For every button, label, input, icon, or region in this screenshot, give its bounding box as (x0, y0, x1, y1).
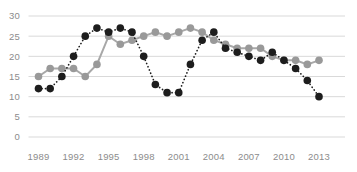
black-dotted-series-point (93, 24, 101, 32)
y-axis-tick-label: 25 (9, 31, 20, 42)
x-axis-tick-label: 2007 (238, 151, 260, 162)
x-axis-tick-label: 1992 (63, 151, 85, 162)
gray-solid-series-point (81, 73, 89, 81)
gray-solid-series-point (93, 61, 101, 69)
x-axis-tick-label: 2001 (168, 151, 190, 162)
gray-solid-series-point (46, 65, 54, 73)
gray-solid-series-point (187, 24, 195, 32)
x-axis-tick-label: 2010 (273, 151, 295, 162)
chart-canvas: 0510152025301989199219951998200120042007… (0, 0, 357, 172)
black-dotted-series-point (175, 89, 183, 97)
gray-solid-series-point (245, 44, 253, 52)
gray-solid-series-point (152, 28, 160, 36)
black-dotted-series-point (233, 49, 241, 57)
black-dotted-series-point (46, 85, 54, 93)
gray-solid-series-point (175, 28, 183, 36)
black-dotted-series-point (280, 57, 288, 65)
black-dotted-series-point (187, 61, 195, 69)
black-dotted-series-point (152, 81, 160, 89)
black-dotted-series-point (58, 73, 66, 81)
black-dotted-series-point (81, 32, 89, 40)
black-dotted-series-point (315, 93, 323, 101)
y-axis-tick-label: 20 (9, 51, 20, 62)
black-dotted-series-line (39, 28, 320, 97)
x-axis-tick-label: 1995 (98, 151, 120, 162)
gray-solid-series-point (117, 40, 125, 48)
black-dotted-series-point (304, 77, 312, 85)
y-axis-tick-label: 0 (15, 131, 20, 142)
y-axis-tick-label: 15 (9, 71, 20, 82)
gray-solid-series-point (35, 73, 43, 81)
gray-solid-series-point (257, 44, 265, 52)
gray-solid-series-point (210, 36, 218, 44)
y-axis-tick-label: 5 (15, 111, 20, 122)
gray-solid-series-point (315, 57, 323, 65)
black-dotted-series-point (70, 53, 78, 61)
black-dotted-series-point (292, 65, 300, 73)
gray-solid-series-point (198, 28, 206, 36)
black-dotted-series-point (117, 24, 125, 32)
x-axis-tick-label: 2013 (308, 151, 330, 162)
black-dotted-series-point (163, 89, 171, 97)
black-dotted-series-point (105, 28, 113, 36)
black-dotted-series-point (35, 85, 43, 93)
gray-solid-series-point (292, 57, 300, 65)
y-axis-tick-label: 30 (9, 10, 20, 21)
gray-solid-series-point (304, 61, 312, 69)
black-dotted-series-point (128, 28, 136, 36)
x-axis-tick-label: 2004 (203, 151, 225, 162)
x-axis-tick-label: 1998 (133, 151, 155, 162)
black-dotted-series-point (210, 28, 218, 36)
gray-solid-series-point (163, 32, 171, 40)
black-dotted-series-point (198, 36, 206, 44)
line-chart: 0510152025301989199219951998200120042007… (0, 0, 357, 172)
y-axis-tick-label: 10 (9, 91, 20, 102)
black-dotted-series-point (140, 53, 148, 61)
black-dotted-series-point (257, 57, 265, 65)
x-axis-tick-label: 1989 (28, 151, 50, 162)
black-dotted-series-point (245, 53, 253, 61)
black-dotted-series-point (268, 49, 276, 57)
black-dotted-series-point (222, 44, 230, 52)
gray-solid-series-point (140, 32, 148, 40)
gray-solid-series-point (70, 65, 78, 73)
